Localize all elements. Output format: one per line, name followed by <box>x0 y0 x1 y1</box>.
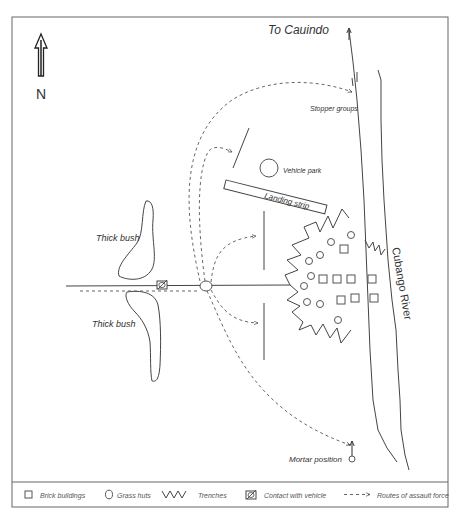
mortar-position-label: Mortar position <box>289 455 342 464</box>
brick-buildings <box>319 245 378 304</box>
stopper-groups-label: Stopper groups <box>310 105 358 113</box>
vehicle-contact-marker <box>157 280 167 289</box>
to-cauindo-label: To Cauindo <box>268 23 329 37</box>
main-road <box>66 285 290 286</box>
legend-label: Brick buildings <box>40 492 86 500</box>
landing-strip-label: Landing strip <box>264 191 311 211</box>
circle-icon <box>106 490 113 499</box>
assembly-point <box>200 281 212 291</box>
legend-item-routes: Routes of assault force <box>344 492 449 499</box>
vehicle-park-marker <box>260 159 278 177</box>
square-icon <box>25 491 32 498</box>
vehicle-contact-icon <box>246 490 256 499</box>
map-frame <box>12 17 448 507</box>
vehicle-park-label: Vehicle park <box>283 167 322 175</box>
legend-item-trenches: Trenches <box>162 491 227 499</box>
zigzag-icon <box>162 491 186 498</box>
legend: Brick buildings Grass huts Trenches Cont… <box>25 490 449 500</box>
legend-item-contact: Contact with vehicle <box>246 490 326 499</box>
thick-bush-south-label: Thick bush <box>92 319 136 329</box>
legend-label: Contact with vehicle <box>264 492 326 499</box>
north-arrow-icon <box>35 34 47 76</box>
blocking-line-north <box>233 128 249 168</box>
legend-label: Grass huts <box>117 492 151 499</box>
thick-bush-south <box>126 291 161 381</box>
mortar-position-marker <box>349 441 355 462</box>
battle-map: N To Cauindo Cubango River Stopper group… <box>0 0 458 519</box>
north-label: N <box>36 86 46 102</box>
thick-bush-north-label: Thick bush <box>96 233 140 243</box>
legend-label: Trenches <box>198 492 227 499</box>
legend-item-brick-buildings: Brick buildings <box>25 491 86 500</box>
legend-label: Routes of assault force <box>377 492 449 499</box>
road-to-cauindo <box>349 28 397 462</box>
legend-item-grass-huts: Grass huts <box>106 490 152 499</box>
